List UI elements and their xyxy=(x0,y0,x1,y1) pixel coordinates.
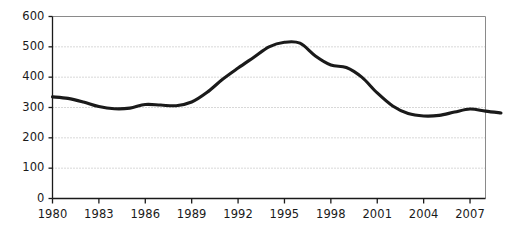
y-tick-label: 400 xyxy=(5,69,45,83)
x-tick-label: 1980 xyxy=(30,207,76,221)
y-tick-label: 200 xyxy=(5,130,45,144)
y-tick-label: 0 xyxy=(5,191,45,205)
y-tick-label: 100 xyxy=(5,160,45,174)
x-tick-label: 2007 xyxy=(447,207,493,221)
x-tick-label: 1995 xyxy=(261,207,307,221)
x-tick-label: 1992 xyxy=(215,207,261,221)
x-tick-label: 1983 xyxy=(76,207,122,221)
x-tick-label: 1998 xyxy=(308,207,354,221)
y-tick-label: 300 xyxy=(5,100,45,114)
x-tick-label: 2001 xyxy=(354,207,400,221)
x-tick-label: 1989 xyxy=(169,207,215,221)
x-tick-label: 2004 xyxy=(401,207,447,221)
line-chart: 0100200300400500600 19801983198619891992… xyxy=(0,0,510,235)
y-tick-label: 600 xyxy=(5,9,45,23)
plot-area xyxy=(0,0,510,235)
y-tick-label: 500 xyxy=(5,39,45,53)
data-series-line xyxy=(53,42,501,116)
x-tick-label: 1986 xyxy=(122,207,168,221)
